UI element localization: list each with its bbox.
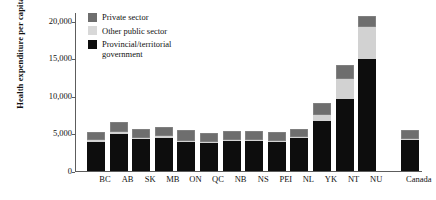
- y-tick-mark: [72, 172, 75, 173]
- chart-legend: Private sector Other public sector Provi…: [88, 12, 182, 63]
- legend-swatch-government-icon: [88, 40, 97, 49]
- y-tick-label: 10,000: [39, 92, 72, 101]
- legend-item-other-public-sector: Other public sector: [88, 26, 182, 36]
- bar-segment: [268, 132, 286, 141]
- y-tick-label: 5,000: [39, 129, 72, 138]
- x-tick-label-canada: Canada: [389, 175, 436, 184]
- bar-nu: [358, 16, 376, 171]
- bar-segment: [200, 143, 218, 171]
- bar-segment: [223, 141, 241, 171]
- bar-segment: [268, 142, 286, 171]
- bar-segment: [177, 142, 195, 171]
- bar-segment: [290, 129, 308, 137]
- bar-segment: [313, 121, 331, 171]
- legend-swatch-private-icon: [88, 13, 97, 22]
- bar-segment: [358, 16, 376, 27]
- bar-segment: [245, 131, 263, 140]
- legend-item-private-sector: Private sector: [88, 12, 182, 22]
- bar-segment: [290, 138, 308, 171]
- bar-pei: [268, 132, 286, 171]
- bar-qc: [200, 133, 218, 171]
- bar-yk: [313, 103, 331, 171]
- y-tick-label: 15,000: [39, 54, 72, 63]
- bar-segment: [401, 140, 419, 171]
- bar-segment: [358, 27, 376, 59]
- bar-segment: [401, 130, 419, 139]
- bar-on: [177, 130, 195, 171]
- legend-item-government: Provincial/territorial government: [88, 39, 182, 59]
- bar-segment: [336, 65, 354, 79]
- bar-mb: [155, 127, 173, 171]
- bar-segment: [313, 103, 331, 115]
- bar-segment: [358, 59, 376, 171]
- bar-nt: [336, 65, 354, 171]
- legend-swatch-other-public-icon: [88, 26, 97, 35]
- bar-ab: [110, 122, 128, 171]
- legend-label-other-public: Other public sector: [102, 26, 167, 36]
- bar-segment: [87, 132, 105, 140]
- bar-segment: [110, 122, 128, 133]
- bar-segment: [336, 79, 354, 99]
- bar-segment: [155, 127, 173, 136]
- y-axis-title: Health expenditure per capita: [15, 0, 25, 128]
- bar-segment: [245, 141, 263, 171]
- bar-nb: [223, 131, 241, 171]
- bar-segment: [200, 133, 218, 142]
- bar-bc: [87, 132, 105, 171]
- bar-sk: [132, 129, 150, 171]
- legend-label-private: Private sector: [102, 12, 149, 22]
- bar-segment: [87, 142, 105, 171]
- bar-nl: [290, 129, 308, 171]
- bar-segment: [155, 138, 173, 171]
- y-tick-label: 20,000: [39, 17, 72, 26]
- bar-segment: [223, 131, 241, 140]
- bar-segment: [132, 129, 150, 138]
- bar-segment: [336, 99, 354, 171]
- bar-segment: [110, 134, 128, 171]
- bar-canada: [401, 130, 419, 171]
- bar-segment: [132, 139, 150, 171]
- bar-ns: [245, 131, 263, 171]
- y-tick-label: 0: [39, 167, 72, 176]
- legend-label-government: Provincial/territorial government: [102, 39, 182, 59]
- bar-segment: [177, 130, 195, 141]
